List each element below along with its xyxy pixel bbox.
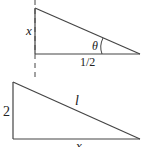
hypotenuse-label: l [75,93,79,108]
top-hypotenuse [35,8,140,54]
bottom-vertical-label: 2 [3,104,10,119]
diagram: x θ 1/2 2 l x [0,0,141,147]
angle-label: θ [92,39,98,53]
bottom-triangle: 2 l x [3,82,140,147]
top-base-label: 1/2 [80,55,95,69]
top-vertical-label: x [25,23,32,38]
angle-arc [101,38,103,54]
bottom-base-label: x [75,138,82,147]
bottom-hypotenuse [13,82,140,139]
top-triangle: x θ 1/2 [25,0,140,78]
